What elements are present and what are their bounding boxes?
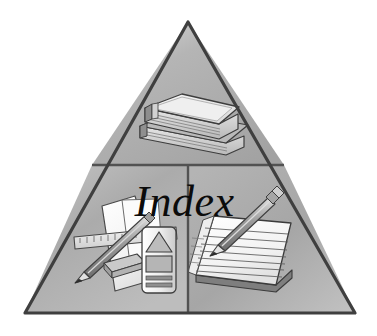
pyramid-illustration bbox=[0, 0, 377, 336]
crayon-icon bbox=[142, 227, 176, 293]
index-graphic-stage: Index bbox=[0, 0, 377, 336]
